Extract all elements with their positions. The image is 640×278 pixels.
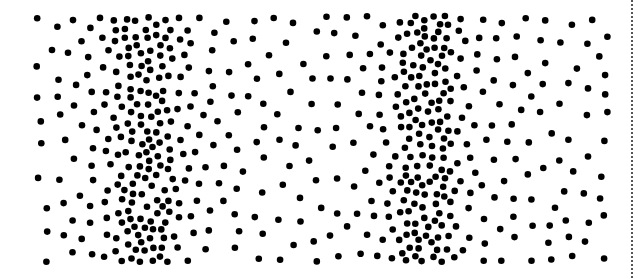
stipple-dot	[389, 226, 396, 233]
stipple-dot	[528, 258, 535, 265]
stipple-dot	[113, 69, 120, 76]
stipple-dot	[466, 103, 473, 110]
stipple-dot	[314, 28, 321, 35]
stipple-dot	[129, 128, 136, 135]
stipple-dot	[565, 80, 572, 87]
stipple-dot	[329, 143, 336, 150]
stipple-dot	[421, 191, 428, 198]
stipple-dot	[211, 30, 218, 37]
stipple-dot	[399, 250, 406, 257]
stipple-dot	[376, 179, 383, 186]
stipple-dot	[156, 139, 163, 146]
stipple-dot	[127, 94, 134, 101]
stipple-dot	[323, 13, 330, 20]
stipple-dot	[104, 231, 111, 238]
stipple-dot	[354, 211, 361, 218]
stipple-dot	[233, 185, 240, 192]
stipple-dot	[447, 98, 454, 105]
stipple-dot	[57, 111, 64, 118]
stipple-dot	[165, 73, 172, 80]
stipple-dot	[537, 37, 544, 44]
stipple-dot	[379, 236, 386, 243]
stipple-dot	[490, 77, 497, 84]
stipple-dot	[380, 126, 387, 133]
stipple-dot	[259, 189, 266, 196]
stipple-dot	[526, 139, 533, 146]
stipple-dot	[367, 51, 374, 58]
stipple-dot	[174, 244, 181, 251]
stipple-dot	[406, 135, 413, 142]
stipple-dot	[261, 154, 268, 161]
stipple-dot	[145, 101, 152, 108]
stipple-dot	[134, 101, 141, 108]
stipple-dot	[411, 96, 418, 103]
stipple-image	[0, 0, 640, 278]
stipple-dot	[147, 67, 154, 74]
stipple-dot	[454, 73, 461, 80]
stipple-dot	[402, 164, 409, 171]
stipple-dot	[314, 258, 321, 265]
stipple-dot	[498, 257, 505, 264]
stipple-dot	[397, 19, 404, 26]
stipple-dot	[419, 182, 426, 189]
stipple-dot	[545, 240, 552, 247]
stipple-dot	[280, 181, 287, 188]
stipple-dot	[93, 127, 100, 134]
stipple-dot	[143, 149, 150, 156]
stipple-dot	[276, 137, 283, 144]
stipple-dot	[563, 217, 570, 224]
stipple-dot	[287, 89, 294, 96]
stipple-dot	[437, 119, 444, 126]
stipple-dot	[426, 178, 433, 185]
stipple-dot	[395, 34, 402, 41]
stipple-dot	[493, 35, 500, 42]
stipple-dot	[135, 71, 142, 78]
stipple-dot	[200, 112, 207, 119]
stipple-dot	[153, 21, 160, 28]
stipple-dot	[434, 191, 441, 198]
stipple-dot	[370, 151, 377, 158]
stipple-dot	[409, 44, 416, 51]
stipple-dot	[331, 30, 338, 37]
stipple-dot	[431, 45, 438, 52]
stipple-dot	[421, 17, 428, 24]
stipple-dot	[597, 195, 604, 202]
stipple-dot	[150, 245, 157, 252]
stipple-dot	[508, 121, 515, 128]
stipple-dot	[435, 29, 442, 36]
stipple-dot	[447, 141, 454, 148]
stipple-dot	[254, 75, 261, 82]
stipple-dot	[143, 77, 150, 84]
stipple-dot	[412, 13, 419, 20]
stipple-dot	[415, 83, 422, 90]
stipple-dot	[177, 74, 184, 81]
stipple-dot	[539, 81, 546, 88]
stipple-dot	[101, 101, 108, 108]
stipple-dot	[202, 246, 209, 253]
stipple-dot	[186, 64, 193, 71]
stipple-dot	[184, 123, 191, 130]
stipple-dot	[144, 34, 151, 41]
stipple-dot	[145, 14, 152, 21]
stipple-dot	[410, 62, 417, 69]
stipple-dot	[186, 165, 193, 172]
stipple-dot	[362, 168, 369, 175]
stipple-dot	[176, 200, 183, 207]
stipple-dot	[159, 244, 166, 251]
stipple-dot	[491, 194, 498, 201]
stipple-dot	[384, 200, 391, 207]
stipple-dot	[234, 146, 241, 153]
stipple-dot	[386, 163, 393, 170]
stipple-dot	[283, 40, 290, 47]
stipple-dot	[570, 168, 577, 175]
stipple-dot	[132, 17, 139, 24]
stipple-dot	[111, 17, 118, 24]
stipple-dot	[480, 88, 487, 95]
stipple-dot	[344, 14, 351, 21]
stipple-dot	[480, 258, 487, 265]
stipple-dot	[158, 226, 165, 233]
stipple-dot	[392, 153, 399, 160]
stipple-dot	[556, 157, 563, 164]
stipple-dot	[118, 134, 125, 141]
stipple-dot	[313, 177, 320, 184]
